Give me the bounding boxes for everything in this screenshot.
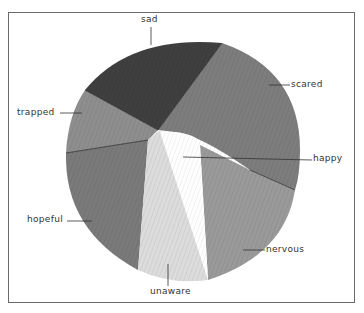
label-nervous: nervous: [266, 244, 304, 254]
label-trapped: trapped: [17, 107, 55, 117]
pie-chart: [0, 0, 364, 313]
label-hopeful: hopeful: [27, 214, 63, 224]
label-scared: scared: [291, 79, 323, 89]
label-sad: sad: [141, 14, 158, 24]
label-happy: happy: [313, 153, 342, 163]
label-unaware: unaware: [150, 286, 191, 296]
